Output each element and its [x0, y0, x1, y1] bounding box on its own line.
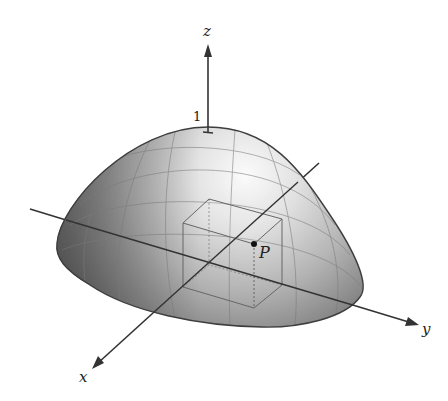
y-axis-label: y: [421, 320, 431, 338]
z-intercept-tick: [203, 132, 213, 133]
z-axis-arrowhead: [204, 44, 212, 57]
point-p-marker: [251, 241, 257, 247]
x-axis-label: x: [79, 368, 88, 386]
z-axis-label: z: [202, 22, 211, 40]
z-intercept-label: 1: [193, 109, 201, 124]
y-axis-back-segment: [30, 209, 66, 220]
x-axis-arrowhead: [92, 356, 104, 369]
point-p-label: P: [258, 243, 270, 262]
paraboloid-figure: z 1 y x P: [0, 0, 448, 401]
x-axis-front-segment: [98, 313, 153, 363]
y-axis-arrowhead: [405, 317, 419, 326]
y-axis-front-segment: [356, 306, 412, 323]
